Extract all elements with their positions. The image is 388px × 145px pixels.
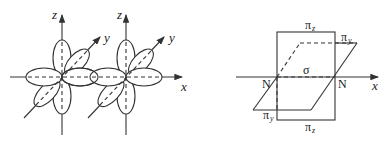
sigma-label: σ (303, 63, 310, 77)
atom-n-left: N (262, 77, 271, 91)
svg-text:π: π (305, 120, 311, 134)
x-label-left: x (180, 79, 187, 94)
z-label-2: z (116, 7, 122, 22)
y-label-1: y (102, 30, 110, 45)
x-label-right: x (371, 78, 378, 93)
y-label-2: y (167, 30, 175, 45)
pi-y-right-label: π y (341, 30, 352, 45)
left-panel-p-orbitals (10, 15, 182, 135)
svg-text:y: y (347, 36, 352, 45)
orbital-diagram: z z y y x σ N N x π z π y π y π (0, 0, 388, 145)
atom-n-right: N (338, 77, 347, 91)
svg-text:π: π (341, 30, 347, 44)
pi-z-bottom-label: π z (305, 120, 316, 135)
svg-text:y: y (269, 114, 274, 123)
svg-text:π: π (305, 18, 311, 32)
pi-z-top-label: π z (305, 18, 316, 33)
svg-text:π: π (263, 108, 269, 122)
svg-text:z: z (311, 126, 316, 135)
z-label-1: z (51, 7, 57, 22)
atom-2-orbitals (88, 15, 164, 135)
